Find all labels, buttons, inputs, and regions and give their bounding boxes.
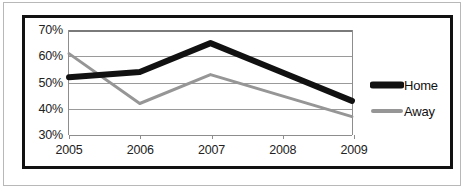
legend-item-home: Home (370, 72, 438, 98)
y-tick-label: 30% (39, 128, 63, 142)
y-tick-label: 60% (39, 49, 63, 63)
line-chart: 30%40%50%60%70% 20052006200720082009 Hom… (22, 15, 453, 169)
legend-swatch-home (370, 79, 404, 91)
x-tick-label: 2005 (55, 143, 82, 157)
series-lines (69, 30, 352, 135)
x-tick-mark (212, 135, 213, 139)
x-tick-label: 2008 (269, 143, 296, 157)
legend-item-away: Away (370, 98, 438, 124)
x-tick-label: 2009 (340, 143, 367, 157)
legend-swatch-away (370, 105, 404, 117)
y-tick-label: 70% (39, 23, 63, 37)
x-tick-mark (354, 135, 355, 139)
chart-legend: Home Away (370, 72, 438, 124)
x-tick-mark (69, 135, 70, 139)
legend-label-home: Home (404, 78, 438, 93)
y-tick-label: 50% (39, 76, 63, 90)
x-tick-label: 2007 (198, 143, 225, 157)
y-tick-label: 40% (39, 102, 63, 116)
legend-label-away: Away (404, 104, 435, 119)
x-tick-mark (140, 135, 141, 139)
plot-area: 30%40%50%60%70% 20052006200720082009 (68, 30, 353, 135)
gridline-30% (69, 135, 352, 136)
x-tick-label: 2006 (127, 143, 154, 157)
x-tick-mark (283, 135, 284, 139)
series-line-home (69, 43, 352, 101)
